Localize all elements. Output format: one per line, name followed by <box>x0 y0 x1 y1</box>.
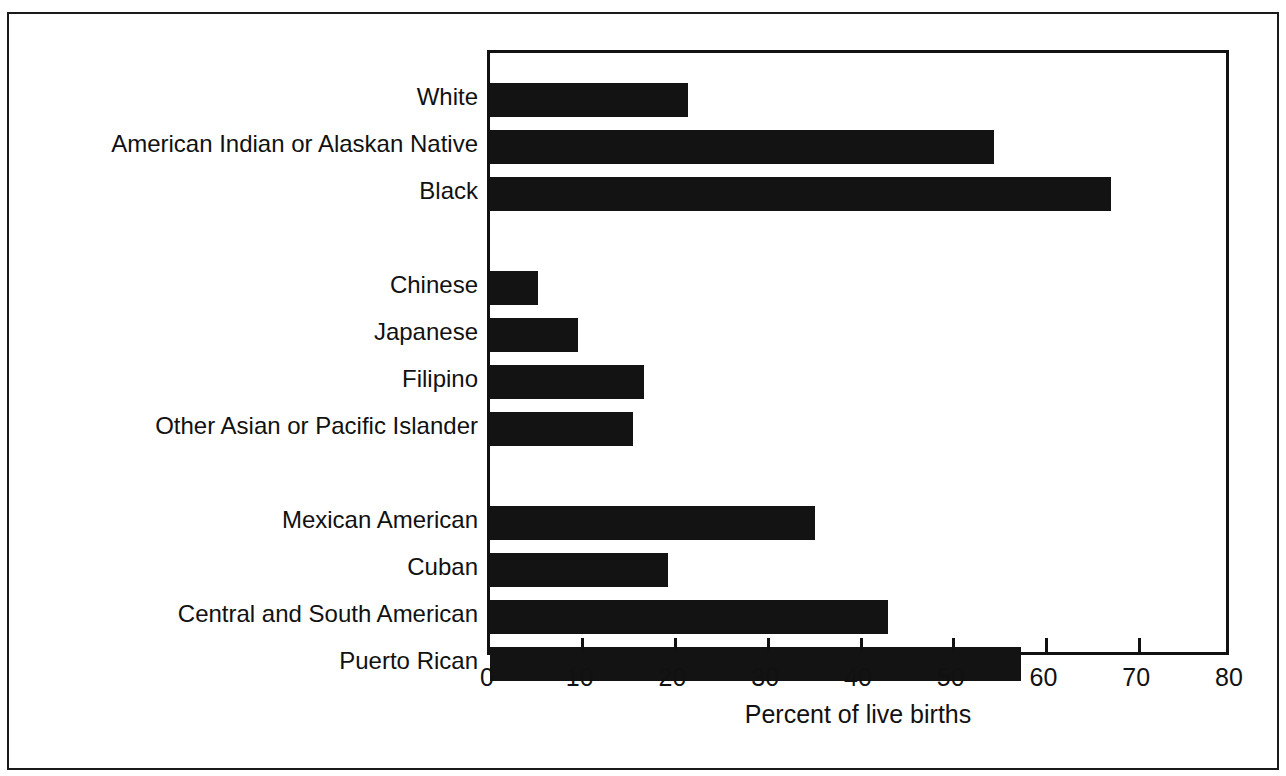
x-axis-tick-label: 10 <box>566 662 594 692</box>
bar <box>490 553 668 587</box>
y-axis-label: Filipino <box>40 362 478 396</box>
x-axis-tick <box>1138 638 1141 652</box>
x-axis-tick <box>860 638 863 652</box>
x-axis-tick <box>674 638 677 652</box>
x-axis-tick-label: 40 <box>844 662 872 692</box>
y-axis-label: Chinese <box>40 268 478 302</box>
bar <box>490 600 888 634</box>
x-axis-tick-label: 0 <box>480 662 494 692</box>
x-axis-tick-label: 30 <box>751 662 779 692</box>
bar <box>490 130 994 164</box>
bar <box>490 412 633 446</box>
y-axis-label: Cuban <box>40 550 478 584</box>
x-axis-tick <box>581 638 584 652</box>
y-axis-label: Japanese <box>40 315 478 349</box>
x-axis-tick-label: 20 <box>659 662 687 692</box>
bar <box>490 506 815 540</box>
x-axis-tick-labels: 01020304050607080 <box>487 662 1229 696</box>
y-axis-label: American Indian or Alaskan Native <box>40 127 478 161</box>
bar <box>490 318 578 352</box>
bar <box>490 83 688 117</box>
bar <box>490 271 538 305</box>
y-axis-label: White <box>40 80 478 114</box>
x-axis-tick <box>952 638 955 652</box>
y-axis-label: Puerto Rican <box>40 644 478 678</box>
x-axis-tick-label: 60 <box>1030 662 1058 692</box>
y-axis-label: Black <box>40 174 478 208</box>
figure: WhiteAmerican Indian or Alaskan NativeBl… <box>0 0 1286 776</box>
y-axis-label: Other Asian or Pacific Islander <box>40 409 478 443</box>
bar <box>490 365 644 399</box>
x-axis-tick <box>767 638 770 652</box>
plot-area <box>487 50 1229 655</box>
x-axis-tick-label: 80 <box>1215 662 1243 692</box>
y-axis-label: Central and South American <box>40 597 478 631</box>
bar <box>490 177 1111 211</box>
bars-layer <box>490 53 1226 652</box>
x-axis-title: Percent of live births <box>487 700 1229 729</box>
x-axis-tick <box>1045 638 1048 652</box>
x-axis-tick-label: 50 <box>937 662 965 692</box>
y-axis-category-labels: WhiteAmerican Indian or Alaskan NativeBl… <box>40 50 478 655</box>
x-axis-tick-label: 70 <box>1122 662 1150 692</box>
y-axis-label: Mexican American <box>40 503 478 537</box>
